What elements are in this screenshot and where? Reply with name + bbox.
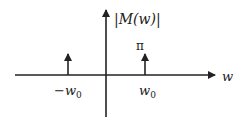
neg-w0-main: −w — [54, 83, 76, 98]
pos-w0-label: w0 — [139, 84, 156, 100]
x-axis-label: w — [222, 70, 233, 83]
neg-w0-sub: 0 — [76, 90, 82, 100]
y-axis-label: |M(w)| — [114, 12, 161, 26]
pos-w0-sub: 0 — [150, 90, 156, 100]
impulse-height-label: π — [136, 40, 144, 52]
neg-w0-label: −w0 — [54, 84, 82, 100]
pos-w0-main: w — [139, 83, 150, 98]
